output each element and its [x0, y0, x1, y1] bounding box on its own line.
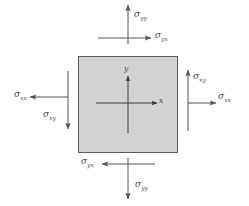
sigma-xx-right-label: σxx	[218, 92, 231, 103]
stress-element-diagram: σyy σyx σxx σxy σxy σxx σyx σyy y x	[0, 0, 249, 206]
sigma-yx-bottom-label: σyx	[81, 157, 94, 168]
sigma-xy-left-label: σxy	[43, 110, 56, 121]
y-axis-label: y	[124, 65, 128, 73]
sigma-xy-right-label: σxy	[193, 72, 206, 83]
x-axis-label: x	[159, 97, 163, 105]
sigma-yx-top-label: σyx	[155, 31, 168, 42]
sigma-yy-bottom-label: σyy	[135, 180, 148, 191]
sigma-yy-top-label: σyy	[134, 10, 147, 21]
diagram-canvas	[0, 0, 249, 206]
sigma-xx-left-label: σxx	[14, 90, 27, 101]
